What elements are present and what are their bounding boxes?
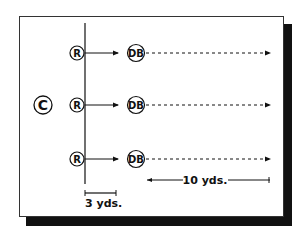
receiver-label: R: [73, 48, 81, 59]
defensive-back-label: DB: [128, 154, 144, 165]
receiver-label: R: [73, 154, 81, 165]
drill-row-3: R DB: [70, 151, 270, 168]
measurement-10-yards: 10 yds.: [147, 174, 270, 187]
drill-row-2: R DB: [70, 97, 270, 114]
coach-label: C: [38, 97, 48, 113]
defensive-back-marker: DB: [128, 45, 145, 62]
defensive-back-label: DB: [128, 48, 144, 59]
defensive-back-marker: DB: [128, 151, 145, 168]
receiver-marker: R: [70, 152, 84, 166]
measurement-3-yards: 3 yds.: [85, 190, 122, 210]
defensive-back-label: DB: [128, 100, 144, 111]
drill-diagram: C R DB R DB: [0, 0, 304, 239]
drill-row-1: R DB: [70, 45, 270, 62]
measurement-3-yards-label: 3 yds.: [85, 197, 122, 210]
diagram-canvas: C R DB R DB: [0, 0, 304, 239]
coach-marker: C: [34, 96, 52, 114]
defensive-back-marker: DB: [128, 97, 145, 114]
receiver-marker: R: [70, 46, 84, 60]
receiver-marker: R: [70, 98, 84, 112]
receiver-label: R: [73, 100, 81, 111]
measurement-10-yards-label: 10 yds.: [183, 174, 228, 187]
